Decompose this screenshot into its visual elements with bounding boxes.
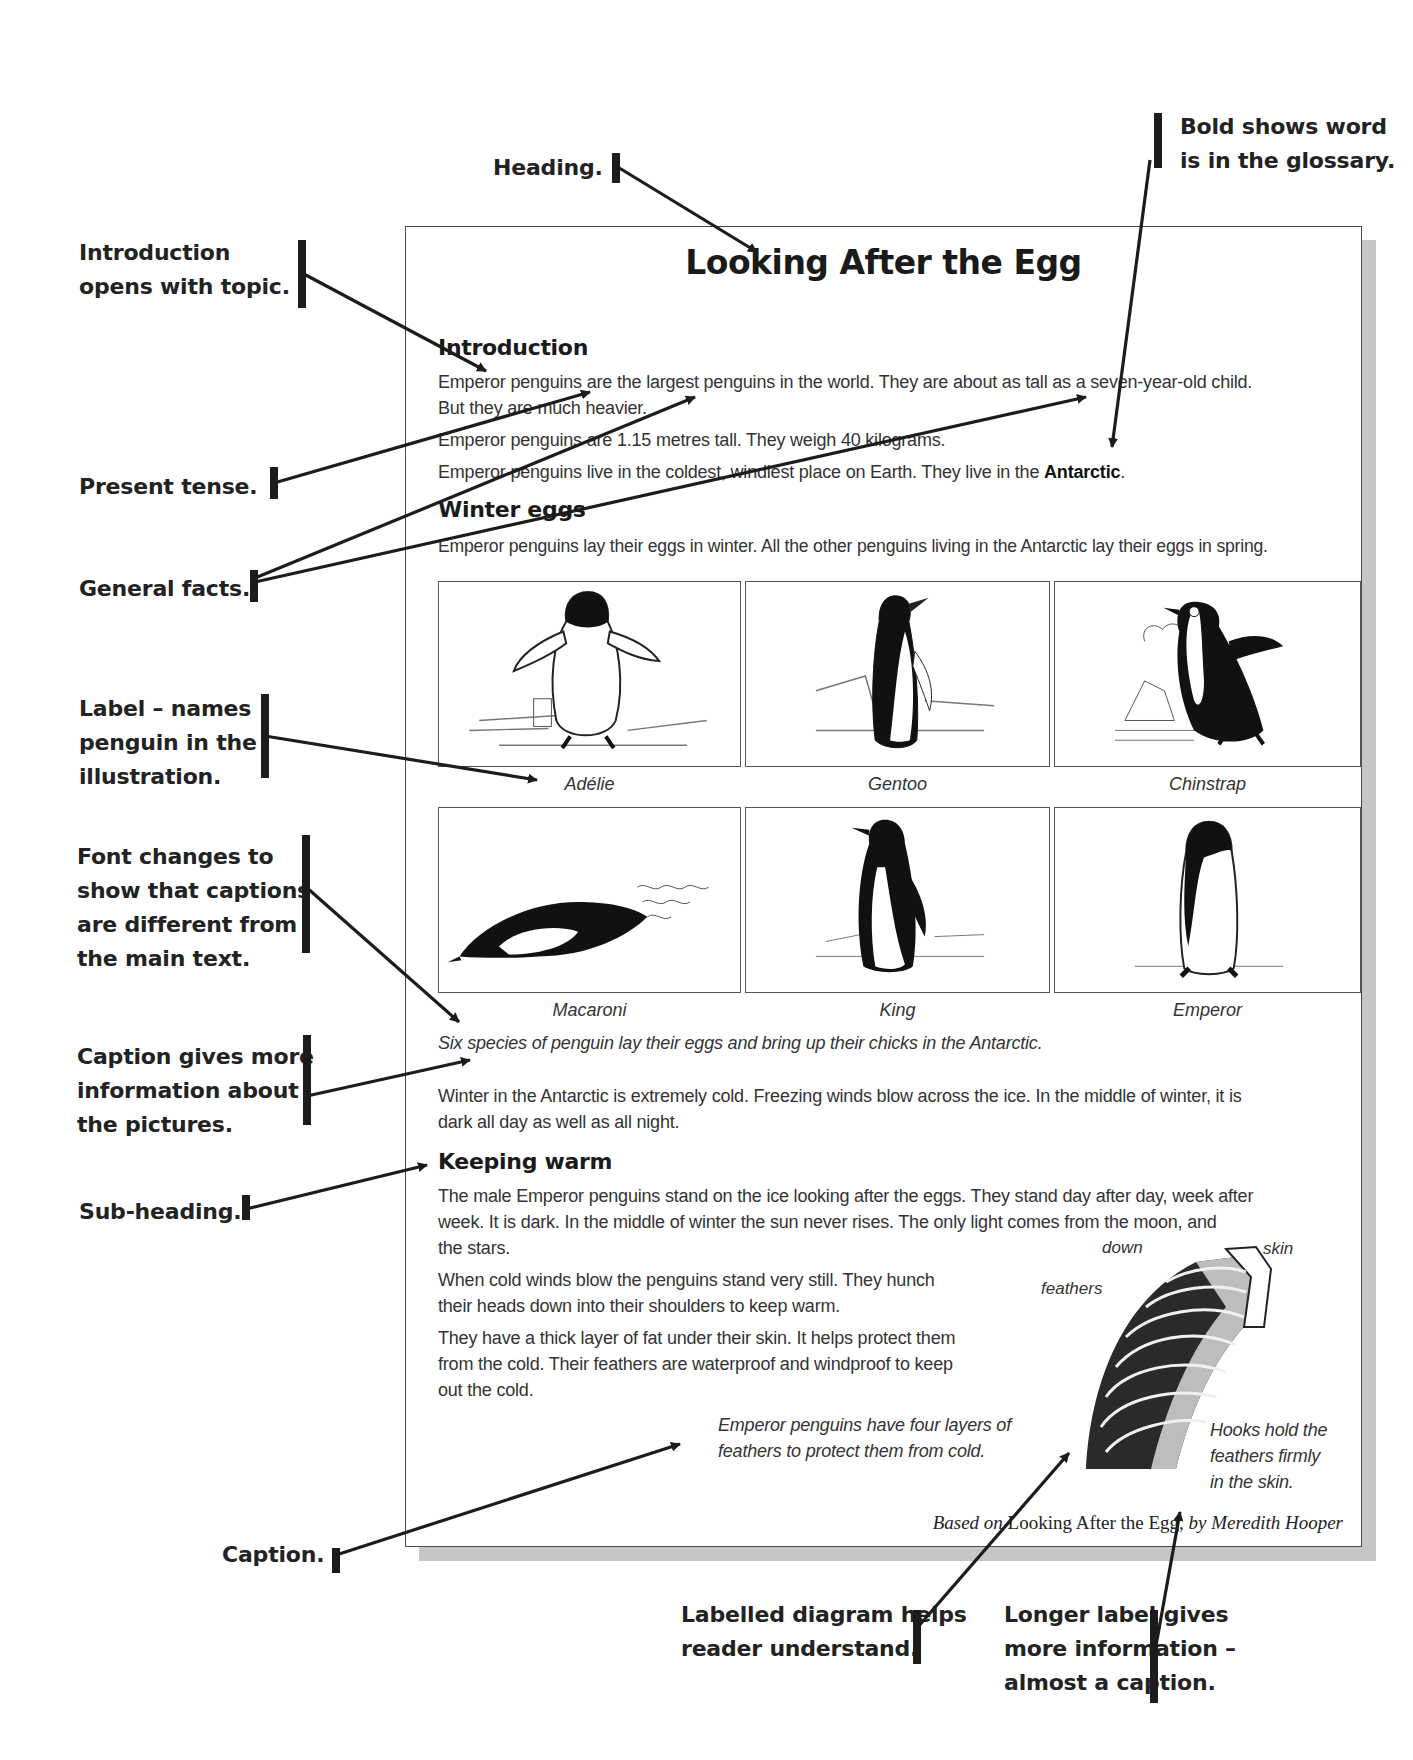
annotation-heading: Heading.: [493, 151, 603, 185]
text-line: in the skin.: [1210, 1469, 1360, 1495]
annotation-text: Heading.: [493, 155, 603, 180]
annotation-text: Bold shows word: [1180, 110, 1395, 144]
page-title: Looking After the Egg: [406, 243, 1361, 282]
annotation-font-changes: Font changes to show that captions are d…: [77, 840, 310, 976]
text-line: When cold winds blow the penguins stand …: [438, 1267, 1038, 1293]
diagram-label-hooks: Hooks hold the feathers firmly in the sk…: [1210, 1417, 1360, 1495]
annotation-text: Label – names: [79, 692, 257, 726]
text-line: They have a thick layer of fat under the…: [438, 1325, 1038, 1351]
text-line: week. It is dark. In the middle of winte…: [438, 1209, 1353, 1235]
intro-paragraph-3: Emperor penguins live in the coldest, wi…: [438, 459, 1348, 485]
annotation-text: Present tense.: [79, 474, 257, 499]
figure-caption: Six species of penguin lay their eggs an…: [438, 1030, 1348, 1056]
annotation-text: Caption.: [222, 1542, 324, 1567]
annotation-bar-sub-heading: [242, 1195, 250, 1220]
winter-eggs-paragraph: Emperor penguins lay their eggs in winte…: [438, 533, 1353, 559]
intro-paragraph-2: Emperor penguins are 1.15 metres tall. T…: [438, 427, 1348, 453]
annotation-text: Introduction: [79, 236, 290, 270]
annotation-present-tense: Present tense.: [79, 470, 257, 504]
text-line: their heads down into their shoulders to…: [438, 1293, 1038, 1319]
attribution-author: by Meredith Hooper: [1189, 1512, 1343, 1533]
text-line: feathers to protect them from cold.: [718, 1438, 1058, 1464]
text-line: from the cold. Their feathers are waterp…: [438, 1351, 1038, 1377]
annotation-sub-heading: Sub-heading.: [79, 1195, 241, 1229]
annotation-text: Labelled diagram helps: [681, 1598, 967, 1632]
text-line: The male Emperor penguins stand on the i…: [438, 1183, 1353, 1209]
annotation-text: Font changes to: [77, 840, 310, 874]
annotation-bar-labelled-diagram: [913, 1610, 921, 1664]
annotation-bar-longer-label: [1150, 1610, 1158, 1703]
annotation-bar-present-tense: [270, 467, 278, 499]
text-line: Winter in the Antarctic is extremely col…: [438, 1083, 1353, 1109]
annotation-caption-info: Caption gives more information about the…: [77, 1040, 314, 1142]
section-heading-winter-eggs: Winter eggs: [438, 497, 586, 522]
annotation-bold-glossary: Bold shows word is in the glossary.: [1180, 110, 1395, 178]
annotation-text: opens with topic.: [79, 270, 290, 304]
annotation-text: are different from: [77, 908, 310, 942]
attribution-book-title: Looking After the Egg,: [1008, 1512, 1184, 1533]
section-heading-introduction: Introduction: [438, 335, 588, 360]
penguin-label-gentoo: Gentoo: [745, 774, 1050, 795]
annotation-longer-label: Longer label gives more information – al…: [1004, 1598, 1236, 1700]
annotation-text: is in the glossary.: [1180, 144, 1395, 178]
glossary-term-antarctic[interactable]: Antarctic: [1044, 462, 1120, 482]
penguin-label-adelie: Adélie: [438, 774, 741, 795]
annotation-text: the pictures.: [77, 1108, 314, 1142]
annotation-text: reader understand.: [681, 1632, 967, 1666]
annotation-caption: Caption.: [222, 1538, 324, 1572]
text-line: Emperor penguins live in the coldest, wi…: [438, 462, 1039, 482]
section-heading-keeping-warm: Keeping warm: [438, 1149, 612, 1174]
intro-paragraph-1: Emperor penguins are the largest penguin…: [438, 369, 1348, 421]
annotation-bar-font-changes: [302, 835, 310, 953]
text-line: out the cold.: [438, 1377, 1038, 1403]
annotation-label: Label – names penguin in the illustratio…: [79, 692, 257, 794]
annotation-text: almost a caption.: [1004, 1666, 1236, 1700]
annotation-text: Caption gives more: [77, 1040, 314, 1074]
diagram-caption: Emperor penguins have four layers of fea…: [718, 1412, 1058, 1464]
keeping-warm-paragraph-2: When cold winds blow the penguins stand …: [438, 1267, 1038, 1319]
text-line: feathers firmly: [1210, 1443, 1360, 1469]
diagram-label-down: down: [1102, 1238, 1143, 1258]
annotation-bar-introduction: [298, 240, 306, 308]
annotation-text: illustration.: [79, 760, 257, 794]
annotation-text: more information –: [1004, 1632, 1236, 1666]
winter-paragraph: Winter in the Antarctic is extremely col…: [438, 1083, 1353, 1135]
macaroni-penguin-illustration: [438, 807, 741, 993]
penguin-label-king: King: [745, 1000, 1050, 1021]
annotation-bar-bold-glossary: [1154, 113, 1162, 168]
adelie-penguin-illustration: [438, 581, 741, 767]
annotation-bar-heading: [612, 153, 620, 183]
annotation-general-facts: General facts.: [79, 572, 250, 606]
annotation-labelled-diagram: Labelled diagram helps reader understand…: [681, 1598, 967, 1666]
text-line: Emperor penguins have four layers of: [718, 1412, 1058, 1438]
annotation-bar-general-facts: [250, 570, 258, 602]
attribution: Based on Looking After the Egg, by Mered…: [933, 1512, 1343, 1534]
chinstrap-penguin-illustration: [1054, 581, 1361, 767]
text-line: But they are much heavier.: [438, 395, 1348, 421]
annotation-text: information about: [77, 1074, 314, 1108]
text-line: Emperor penguins are 1.15 metres tall. T…: [438, 427, 1348, 453]
attribution-prefix: Based on: [933, 1512, 1003, 1533]
document-page: Looking After the Egg Introduction Emper…: [405, 226, 1362, 1547]
annotation-bar-caption-info: [303, 1035, 311, 1125]
text-line: Emperor penguins are the largest penguin…: [438, 369, 1348, 395]
annotation-text: Sub-heading.: [79, 1199, 241, 1224]
penguin-label-macaroni: Macaroni: [438, 1000, 741, 1021]
annotation-bar-caption: [332, 1548, 340, 1573]
annotation-text: show that captions: [77, 874, 310, 908]
gentoo-penguin-illustration: [745, 581, 1050, 767]
diagram-label-skin: skin: [1263, 1239, 1293, 1259]
diagram-label-feathers: feathers: [1041, 1279, 1102, 1299]
king-penguin-illustration: [745, 807, 1050, 993]
emperor-penguin-illustration: [1054, 807, 1361, 993]
annotation-text: penguin in the: [79, 726, 257, 760]
text-punct: .: [1120, 462, 1125, 482]
annotation-bar-label: [261, 694, 269, 778]
text-line: dark all day as well as all night.: [438, 1109, 1353, 1135]
keeping-warm-paragraph-3: They have a thick layer of fat under the…: [438, 1325, 1038, 1403]
annotation-introduction: Introduction opens with topic.: [79, 236, 290, 304]
penguin-label-chinstrap: Chinstrap: [1054, 774, 1361, 795]
annotation-text: the main text.: [77, 942, 310, 976]
annotation-text: Longer label gives: [1004, 1598, 1236, 1632]
annotation-text: General facts.: [79, 576, 250, 601]
